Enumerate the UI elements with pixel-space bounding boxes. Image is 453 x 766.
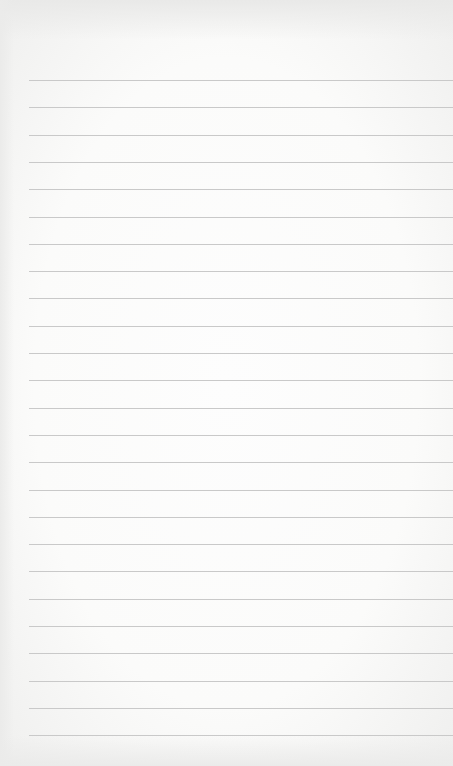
- ruled-line: [29, 653, 453, 654]
- ruled-line: [29, 80, 453, 81]
- ruled-line: [29, 380, 453, 381]
- ruled-line: [29, 271, 453, 272]
- ruled-line: [29, 626, 453, 627]
- ruled-line: [29, 571, 453, 572]
- ruled-line: [29, 107, 453, 108]
- ruled-line: [29, 408, 453, 409]
- ruled-line: [29, 490, 453, 491]
- ruled-line: [29, 708, 453, 709]
- ruled-line: [29, 735, 453, 736]
- lined-paper: [0, 0, 453, 766]
- ruled-line: [29, 244, 453, 245]
- ruled-line: [29, 462, 453, 463]
- ruled-line: [29, 135, 453, 136]
- ruled-line: [29, 298, 453, 299]
- ruled-line: [29, 189, 453, 190]
- ruled-line: [29, 435, 453, 436]
- ruled-line: [29, 217, 453, 218]
- ruled-line: [29, 517, 453, 518]
- ruled-line: [29, 681, 453, 682]
- ruled-line: [29, 544, 453, 545]
- ruled-line: [29, 599, 453, 600]
- ruled-line: [29, 162, 453, 163]
- paper-edge-shadow: [0, 0, 14, 766]
- ruled-line: [29, 326, 453, 327]
- ruled-line: [29, 353, 453, 354]
